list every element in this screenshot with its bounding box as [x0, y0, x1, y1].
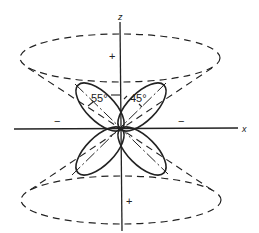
- orbital-diagram: z x 55° 45° + + − −: [0, 0, 259, 233]
- sign-bottom-cone: +: [126, 195, 132, 207]
- sign-top-cone: +: [109, 50, 115, 62]
- angle-label-right: 45°: [130, 92, 147, 104]
- z-axis-label: z: [117, 12, 123, 22]
- sign-left-region: −: [54, 115, 60, 127]
- sign-right-region: −: [178, 115, 184, 127]
- x-axis: [14, 128, 238, 129]
- angle-label-left: 55°: [91, 92, 108, 104]
- x-axis-label: x: [241, 124, 247, 134]
